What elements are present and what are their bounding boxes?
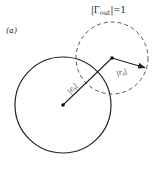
- origin-dot: [61, 103, 65, 107]
- radius-label: |rs|: [115, 67, 128, 78]
- smith-chart-circle-diagram: (a) |Γout|=1 |cs| |rs|: [0, 0, 166, 176]
- stability-center-dot: [110, 56, 114, 60]
- unit-circle-label: |Γout|=1: [91, 5, 126, 17]
- radius-arrow: [112, 58, 145, 68]
- center-distance-label: |cs|: [66, 82, 80, 96]
- panel-label: (a): [6, 26, 17, 35]
